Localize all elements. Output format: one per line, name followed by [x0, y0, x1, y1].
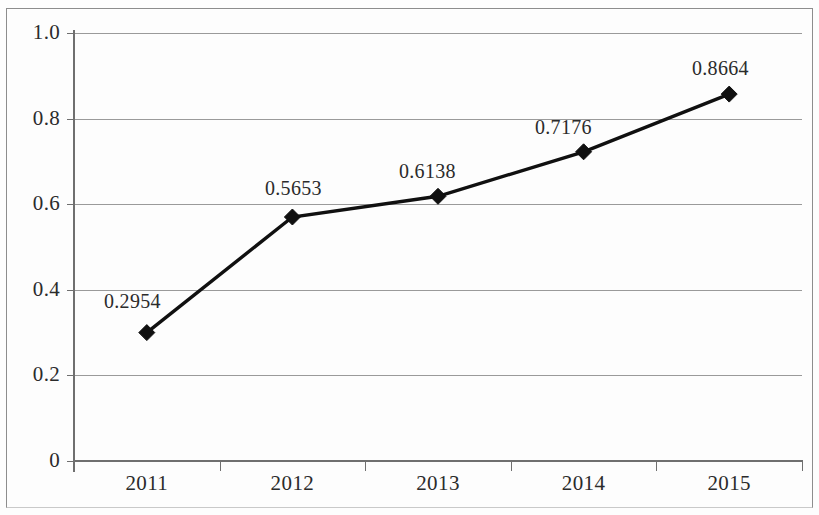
data-label-2014: 0.7176 [535, 117, 592, 137]
data-label-2011: 0.2954 [104, 291, 161, 311]
data-label-2015: 0.8664 [692, 58, 749, 78]
data-point-marker-2014[interactable] [576, 144, 592, 160]
series-polyline [147, 94, 729, 333]
data-label-2013: 0.6138 [399, 161, 456, 181]
data-label-2012: 0.5653 [265, 178, 322, 198]
data-point-marker-2015[interactable] [721, 86, 737, 102]
chart-figure: 1.0 0.8 0.6 0.4 0.2 0 2011 2012 2013 201… [0, 0, 819, 515]
data-point-marker-2013[interactable] [430, 188, 446, 204]
